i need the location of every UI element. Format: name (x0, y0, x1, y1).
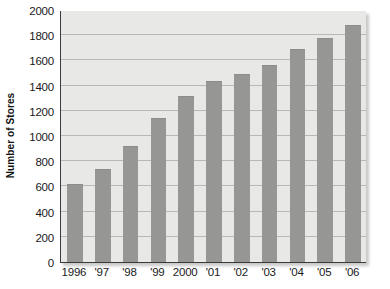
y-axis-tick-label: 0 (48, 257, 54, 269)
x-axis-tick-label: '97 (95, 266, 109, 278)
y-axis-tick-label: 200 (35, 232, 54, 244)
x-axis-tick-label: '04 (289, 266, 303, 278)
bar (123, 146, 139, 262)
x-axis-tick-label: 2000 (173, 266, 198, 278)
bar (345, 25, 361, 262)
y-axis-tick-label: 600 (35, 181, 54, 193)
x-axis-tick-labels: 1996'97'98'992000'01'02'03'04'05'06 (60, 266, 366, 286)
y-axis-tick-labels: 0200400600800100012001400160018002000 (20, 0, 58, 272)
x-axis-tick-label: '05 (317, 266, 331, 278)
plot-area (60, 11, 366, 263)
bar (317, 38, 333, 262)
y-axis-tick-label: 1400 (29, 81, 54, 93)
y-axis-tick-label: 400 (35, 207, 54, 219)
y-axis-tick-label: 1800 (29, 30, 54, 42)
x-axis-tick-label: 1996 (62, 266, 87, 278)
y-axis-tick-label: 1000 (29, 131, 54, 143)
bars-layer (61, 11, 366, 262)
bar-chart: Number of Stores 02004006008001000120014… (0, 0, 390, 289)
bar (151, 118, 167, 262)
x-axis-tick-label: '98 (122, 266, 136, 278)
bar (67, 184, 83, 262)
x-axis-tick-label: '99 (150, 266, 164, 278)
y-axis-tick-label: 1600 (29, 55, 54, 67)
bar (206, 81, 222, 262)
bar (262, 65, 278, 262)
bar (178, 96, 194, 262)
y-axis-title: Number of Stores (0, 0, 22, 270)
bar (234, 74, 250, 262)
y-axis-tick-label: 2000 (29, 5, 54, 17)
x-axis-tick-label: '06 (345, 266, 359, 278)
x-axis-tick-label: '02 (234, 266, 248, 278)
bar (95, 169, 111, 262)
y-axis-title-label: Number of Stores (6, 92, 17, 178)
x-axis-tick-label: '03 (261, 266, 275, 278)
y-axis-tick-label: 800 (35, 156, 54, 168)
bar (290, 49, 306, 262)
x-axis-tick-label: '01 (206, 266, 220, 278)
y-axis-tick-label: 1200 (29, 106, 54, 118)
